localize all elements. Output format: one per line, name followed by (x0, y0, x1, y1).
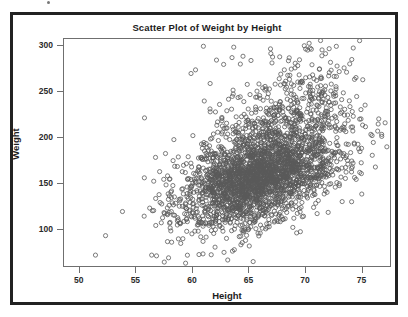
scatter-point (238, 62, 242, 66)
scatter-point (193, 68, 197, 72)
scatter-point (285, 91, 289, 95)
scatter-point (269, 99, 273, 103)
scatter-point (268, 47, 272, 51)
scatter-point (297, 58, 301, 62)
scatter-point (199, 235, 203, 239)
scatter-point (349, 151, 353, 155)
scatter-point (197, 252, 201, 256)
scatter-point (348, 105, 352, 109)
x-tick-label: 65 (233, 275, 263, 285)
scatter-point (373, 165, 377, 169)
scatter-point (171, 183, 175, 187)
scatter-point (230, 56, 234, 60)
scatter-point (213, 228, 217, 232)
scatter-point (344, 170, 348, 174)
scatter-point (340, 98, 344, 102)
scatter-point (175, 164, 179, 168)
scatter-point (357, 39, 361, 43)
scatter-point (93, 253, 97, 257)
scatter-point (163, 151, 167, 155)
scatter-point (279, 72, 283, 76)
scatter-point (152, 179, 156, 183)
scatter-point (350, 109, 354, 113)
scatter-point (335, 64, 339, 68)
scatter-point (196, 169, 200, 173)
scatter-point (159, 221, 163, 225)
scatter-point (328, 60, 332, 64)
scatter-point (201, 44, 205, 48)
scatter-point (208, 81, 212, 85)
scatter-point (350, 200, 354, 204)
scatter-point (377, 117, 381, 121)
scatter-point (347, 99, 351, 103)
scatter-point (337, 70, 341, 74)
scatter-point (371, 140, 375, 144)
scatter-point (164, 183, 168, 187)
chart-title: Scatter Plot of Weight by Height (13, 22, 401, 33)
scatter-point (289, 88, 293, 92)
scatter-point (270, 61, 274, 65)
scatter-point (363, 103, 367, 107)
scatter-point (335, 119, 339, 123)
scatter-point (295, 231, 299, 235)
scatter-point (249, 111, 253, 115)
scatter-point (291, 225, 295, 229)
scatter-point (224, 236, 228, 240)
x-tick-mark (135, 267, 136, 273)
scatter-point (280, 119, 284, 123)
scatter-point (154, 254, 158, 258)
x-tick-label: 55 (120, 275, 150, 285)
scatter-point (293, 66, 297, 70)
y-tick-label: 250 (19, 86, 53, 96)
x-tick-label: 60 (177, 275, 207, 285)
scatter-point (383, 121, 387, 125)
scatter-point (292, 216, 296, 220)
scatter-point (244, 233, 248, 237)
scatter-point (162, 177, 166, 181)
scatter-point (230, 125, 234, 129)
x-tick-mark (362, 267, 363, 273)
scatter-point (267, 217, 271, 221)
x-tick-mark (248, 267, 249, 273)
scatter-point (256, 116, 260, 120)
scatter-point (168, 226, 172, 230)
scatter-point (294, 200, 298, 204)
scatter-point (338, 105, 342, 109)
scatter-point (370, 153, 374, 157)
scatter-point (235, 220, 239, 224)
scatter-point (181, 237, 185, 241)
scatter-point (185, 229, 189, 233)
scatter-point (291, 207, 295, 211)
scatter-point (185, 253, 189, 257)
image-outer-border: Scatter Plot of Weight by Height 1001502… (10, 12, 398, 305)
scatter-point (310, 63, 314, 67)
scatter-point (340, 200, 344, 204)
scatter-point (154, 196, 158, 200)
scatter-point (189, 71, 193, 75)
scatter-point (351, 46, 355, 50)
scatter-point (154, 223, 158, 227)
scatter-point (335, 160, 339, 164)
scan-artifact-speck (47, 1, 50, 4)
scatter-point (228, 137, 232, 141)
scatter-point (261, 98, 265, 102)
scatter-point (255, 89, 259, 93)
scatter-point (222, 250, 226, 254)
scatter-point (226, 258, 230, 262)
scatter-point (179, 241, 183, 245)
scatter-point (257, 82, 261, 86)
x-tick-label: 50 (64, 275, 94, 285)
x-axis-title: Height (63, 290, 391, 301)
scatter-point (326, 95, 330, 99)
scatter-point (246, 107, 250, 111)
scatter-point (150, 253, 154, 257)
scatter-point (165, 240, 169, 244)
scatter-point (211, 132, 215, 136)
scatter-point (311, 205, 315, 209)
scatter-point (172, 138, 176, 142)
scatter-point (217, 102, 221, 106)
scatter-point (120, 209, 124, 213)
scatter-point (201, 252, 205, 256)
scatter-point (229, 107, 233, 111)
y-tick-mark (57, 45, 63, 46)
